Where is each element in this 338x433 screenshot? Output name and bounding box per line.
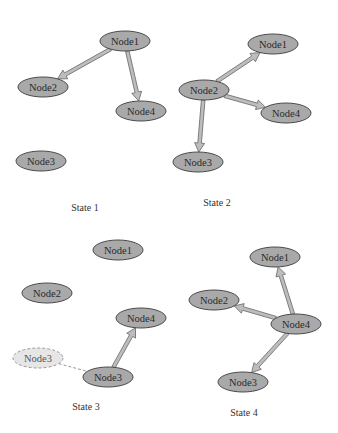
node-label: Node1 <box>259 39 287 50</box>
edge-arrow-node1-to-node2 <box>58 48 112 79</box>
edge-arrow-node2-to-node1 <box>216 53 260 83</box>
node-node1-state-3[interactable]: Node1 <box>93 240 143 260</box>
node-label: Node4 <box>127 106 156 117</box>
node-node2-state-1[interactable]: Node2 <box>18 77 68 97</box>
node-node4-state-2[interactable]: Node4 <box>261 103 311 123</box>
panel-state-1 <box>58 48 142 101</box>
node-node1-state-1[interactable]: Node1 <box>100 31 150 51</box>
node-label: Node4 <box>127 313 156 324</box>
node-label: Node3 <box>229 377 257 388</box>
state-label-2: State 2 <box>203 197 231 208</box>
node-node1-state-2[interactable]: Node1 <box>248 34 298 54</box>
node-label: Node2 <box>200 295 228 306</box>
node-node3-state-4[interactable]: Node3 <box>218 372 268 392</box>
edge-arrow-node1-to-node4 <box>126 51 142 101</box>
node-node3-state-1[interactable]: Node3 <box>16 151 66 171</box>
edge-arrow-node2-to-node4 <box>224 94 266 110</box>
node-node3-state-2[interactable]: Node3 <box>173 152 223 172</box>
edge-arrow-node4-to-node1 <box>276 267 295 315</box>
node-label: Node2 <box>33 288 61 299</box>
node-node4-state-1[interactable]: Node4 <box>116 101 166 121</box>
node-node3-ghost-state-3[interactable]: Node3 <box>13 348 63 368</box>
node-label: Node3 <box>94 372 122 383</box>
node-label: Node4 <box>272 108 301 119</box>
nodes-layer: Node1Node2Node4Node3Node1Node2Node4Node3… <box>13 31 321 392</box>
node-node1-state-4[interactable]: Node1 <box>250 247 300 267</box>
node-label: Node3 <box>24 353 52 364</box>
dashed-link <box>59 364 88 372</box>
node-node2-state-2[interactable]: Node2 <box>179 80 229 100</box>
node-node4-state-3[interactable]: Node4 <box>116 308 166 328</box>
node-node3-state-3[interactable]: Node3 <box>83 367 133 387</box>
node-label: Node1 <box>111 36 139 47</box>
node-node2-state-4[interactable]: Node2 <box>189 290 239 310</box>
panel-state-2 <box>195 53 266 152</box>
node-label: Node4 <box>282 319 311 330</box>
node-label: Node2 <box>190 85 218 96</box>
state-label-4: State 4 <box>230 407 258 418</box>
edge-arrow-node4-to-node2 <box>234 304 276 320</box>
diagram-canvas: Node1Node2Node4Node3Node1Node2Node4Node3… <box>0 0 338 433</box>
node-node4-state-4[interactable]: Node4 <box>271 314 321 334</box>
panel-state-3 <box>59 328 136 372</box>
node-label: Node1 <box>104 245 132 256</box>
state-label-3: State 3 <box>72 401 100 412</box>
node-label: Node3 <box>184 157 212 168</box>
node-label: Node2 <box>29 82 57 93</box>
node-label: Node3 <box>27 156 55 167</box>
edge-arrow-node2-to-node3 <box>195 100 205 152</box>
edge-arrow-node4-to-node3 <box>252 332 289 372</box>
state-label-1: State 1 <box>71 202 99 213</box>
node-label: Node1 <box>261 252 289 263</box>
node-node2-state-3[interactable]: Node2 <box>22 283 72 303</box>
edge-arrow-node3-to-node4 <box>112 328 136 368</box>
